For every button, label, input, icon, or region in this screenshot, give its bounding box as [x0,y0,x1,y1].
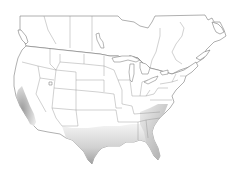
range-map [0,0,240,175]
range-south-central [62,124,150,164]
great-salt-lake [49,82,52,85]
